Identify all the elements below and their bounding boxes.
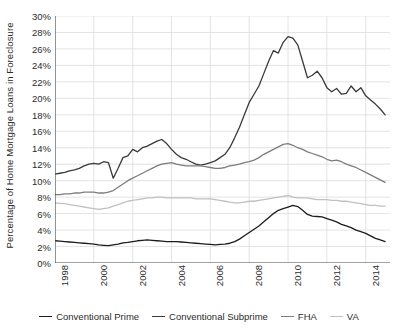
legend-line-swatch bbox=[281, 316, 294, 317]
y-tick-label: 28% bbox=[32, 27, 51, 38]
legend-line-swatch bbox=[330, 316, 343, 317]
legend-label: Conventional Prime bbox=[56, 311, 139, 322]
legend-label: FHA bbox=[298, 311, 317, 322]
x-tick-label: 2006 bbox=[214, 265, 225, 286]
y-axis-title: Percentage of Home Mortgage Loans in For… bbox=[0, 0, 18, 270]
legend-item[interactable]: VA bbox=[330, 311, 359, 322]
legend-line-swatch bbox=[152, 316, 165, 317]
legend-label: Conventional Subprime bbox=[169, 311, 268, 322]
legend-label: VA bbox=[347, 311, 359, 322]
legend-item[interactable]: FHA bbox=[281, 311, 317, 322]
y-tick-label: 22% bbox=[32, 76, 51, 87]
y-tick-label: 4% bbox=[37, 225, 51, 236]
series-line-3 bbox=[55, 144, 385, 195]
x-tick-label: 2002 bbox=[137, 265, 148, 286]
y-tick-label: 30% bbox=[32, 11, 51, 22]
y-tick-label: 12% bbox=[32, 159, 51, 170]
y-axis-tick-labels: 0%2%4%6%8%10%12%14%16%18%20%22%24%26%28%… bbox=[18, 0, 55, 280]
y-tick-label: 16% bbox=[32, 126, 51, 137]
y-tick-label: 24% bbox=[32, 60, 51, 71]
x-tick-label: 2004 bbox=[176, 265, 187, 286]
y-tick-label: 26% bbox=[32, 43, 51, 54]
gridlines bbox=[55, 16, 390, 263]
y-tick-label: 14% bbox=[32, 142, 51, 153]
legend-item[interactable]: Conventional Prime bbox=[39, 311, 139, 322]
y-tick-label: 6% bbox=[37, 208, 51, 219]
x-tick-label: 2012 bbox=[331, 265, 342, 286]
y-tick-label: 8% bbox=[37, 192, 51, 203]
chart-legend: Conventional PrimeConventional SubprimeF… bbox=[0, 306, 398, 326]
x-tick-label: 1998 bbox=[59, 265, 70, 286]
series-line-1 bbox=[55, 205, 385, 245]
series-line-2 bbox=[55, 37, 385, 179]
data-series-layer bbox=[55, 37, 385, 246]
y-tick-label: 10% bbox=[32, 175, 51, 186]
y-tick-label: 2% bbox=[37, 241, 51, 252]
y-tick-label: 18% bbox=[32, 109, 51, 120]
series-line-4 bbox=[55, 195, 385, 209]
y-tick-label: 0% bbox=[37, 258, 51, 269]
axis-lines bbox=[55, 16, 390, 263]
x-axis-tick-labels: 199820002002200420062008201020122014 bbox=[55, 265, 390, 310]
legend-item[interactable]: Conventional Subprime bbox=[152, 311, 268, 322]
x-tick-label: 2008 bbox=[253, 265, 264, 286]
x-tick-label: 2014 bbox=[370, 265, 381, 286]
foreclosure-rate-line-chart: Percentage of Home Mortgage Loans in For… bbox=[0, 0, 398, 332]
plot-svg bbox=[55, 16, 390, 263]
plot-area bbox=[55, 16, 390, 263]
y-tick-label: 20% bbox=[32, 93, 51, 104]
x-tick-label: 2010 bbox=[292, 265, 303, 286]
legend-line-swatch bbox=[39, 316, 52, 317]
x-tick-label: 2000 bbox=[98, 265, 109, 286]
axis-tick-marks bbox=[55, 16, 385, 263]
y-axis-title-text: Percentage of Home Mortgage Loans in For… bbox=[4, 22, 15, 248]
